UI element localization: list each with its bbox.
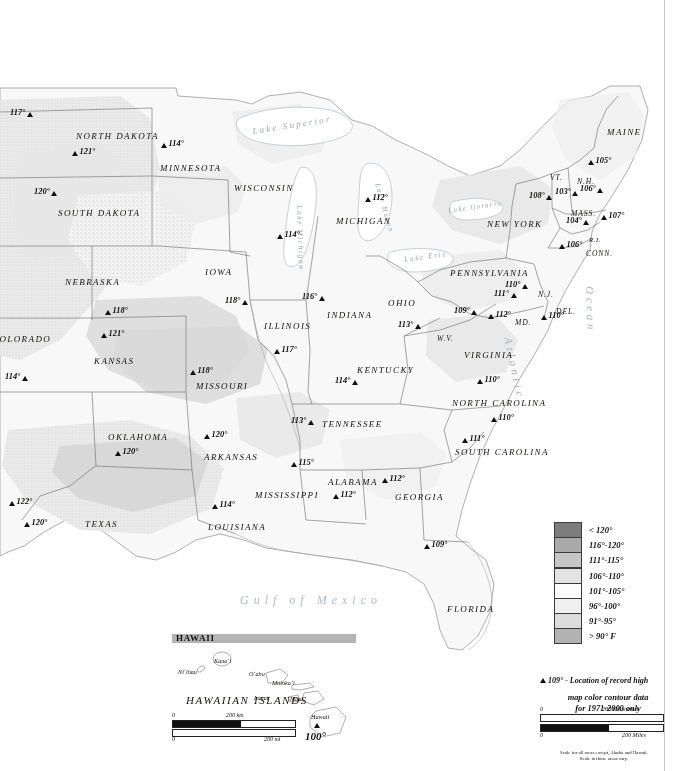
state-label: NORTH DAKOTA xyxy=(76,131,159,141)
state-label: INDIANA xyxy=(327,310,372,320)
record-high-marker: 112° xyxy=(382,474,405,483)
record-value: 118° xyxy=(198,366,213,375)
record-high-marker: 110° xyxy=(477,375,500,384)
legend-swatch-row: 101°-105° xyxy=(554,583,625,599)
state-label: MINNESOTA xyxy=(160,163,221,173)
record-high-marker: 112° xyxy=(333,490,356,499)
state-label: VT. xyxy=(550,173,563,182)
record-value: 115° xyxy=(299,458,314,467)
record-marker-icon xyxy=(22,376,28,381)
hawaii-scale-mi-zero: 0 xyxy=(172,736,175,742)
legend-color-swatch xyxy=(554,568,582,584)
record-marker-icon xyxy=(204,434,210,439)
record-high-marker: 110° xyxy=(505,280,528,289)
record-value: 118° xyxy=(225,296,240,305)
record-marker-icon xyxy=(51,191,57,196)
record-marker-icon xyxy=(115,451,121,456)
state-label: SOUTH DAKOTA xyxy=(58,208,140,218)
island-molokai xyxy=(292,683,314,690)
record-high-marker: 114° xyxy=(161,139,184,148)
state-label: OKLAHOMA xyxy=(108,432,168,442)
record-marker-icon xyxy=(522,284,528,289)
record-high-marker: 114° xyxy=(5,372,28,381)
state-label: LOUISIANA xyxy=(208,522,266,532)
state-label: R.I. xyxy=(589,236,601,243)
record-value: 110° xyxy=(505,280,520,289)
record-marker-icon xyxy=(601,215,607,220)
record-high-marker: 121° xyxy=(72,147,95,156)
record-marker-icon xyxy=(491,417,497,422)
record-high-marker: 110° xyxy=(491,413,514,422)
legend-footnote: Scale for all areas except, Alaska and H… xyxy=(536,750,672,763)
legend-scale-km-label: 200 Kilometers xyxy=(602,706,639,712)
record-high-marker: 113° xyxy=(291,416,314,425)
record-marker-icon xyxy=(415,324,421,329)
record-marker-icon xyxy=(333,494,339,499)
record-high-marker: 104° xyxy=(566,216,589,225)
record-value: 120° xyxy=(32,518,48,527)
record-marker-icon xyxy=(161,143,167,148)
record-value: 111° xyxy=(470,434,485,443)
record-marker-icon xyxy=(477,379,483,384)
legend-swatch-row: < 120° xyxy=(554,522,612,538)
legend-swatch-label: 116°-120° xyxy=(589,540,624,550)
legend-swatch-label: 91°-95° xyxy=(589,616,616,626)
state-label: NEW YORK xyxy=(487,219,542,229)
map-figure: Lake Superior Lake Michigan Lake Huron L… xyxy=(0,0,674,771)
record-value: 112° xyxy=(496,310,511,319)
legend-source-line1: map color contour data xyxy=(546,692,670,703)
record-value: 110° xyxy=(549,311,564,320)
record-value: 107° xyxy=(609,211,625,220)
atlantic-ocean-word2: Ocean xyxy=(584,286,598,333)
record-high-marker: 112° xyxy=(365,193,388,202)
state-label: TENNESSEE xyxy=(322,419,383,429)
hawaii-scale-km-zero: 0 xyxy=(172,712,175,718)
legend-scale-mi-zero: 0 xyxy=(540,732,543,738)
record-marker-icon xyxy=(27,112,33,117)
record-high-marker: 118° xyxy=(105,306,128,315)
record-high-marker: 112° xyxy=(488,310,511,319)
legend-swatch-row: 96°-100° xyxy=(554,598,620,614)
record-value: 106° xyxy=(580,184,596,193)
record-high-marker: 107° xyxy=(601,211,624,220)
record-high-marker: 108° xyxy=(529,191,552,200)
record-high-marker: 111° xyxy=(462,434,485,443)
record-high-marker: 120° xyxy=(24,518,47,527)
record-value: 116° xyxy=(302,292,317,301)
state-label: PENNSYLVANIA xyxy=(450,268,529,278)
state-label: CONN. xyxy=(586,249,613,258)
record-marker-icon xyxy=(511,293,517,298)
record-marker-icon xyxy=(471,310,477,315)
record-marker-icon xyxy=(242,300,248,305)
record-value: 114° xyxy=(220,500,235,509)
record-high-marker: 121° xyxy=(101,329,124,338)
record-marker-icon xyxy=(583,220,589,225)
record-marker-icon xyxy=(308,420,314,425)
hawaii-island-label: Maui xyxy=(290,695,303,702)
record-marker-icon xyxy=(488,314,494,319)
record-marker-icon xyxy=(352,380,358,385)
record-value: 120° xyxy=(34,187,50,196)
record-marker-icon xyxy=(541,315,547,320)
legend-scale-mi-label: 200 Miles xyxy=(622,732,646,738)
state-label: MD. xyxy=(515,318,531,327)
record-value: 110° xyxy=(499,413,514,422)
record-value: 103° xyxy=(555,187,571,196)
state-label: ALABAMA xyxy=(328,477,378,487)
record-high-marker: 109° xyxy=(454,306,477,315)
record-high-marker: 120° xyxy=(115,447,138,456)
record-high-marker: 111° xyxy=(494,289,517,298)
record-marker-icon xyxy=(540,678,546,683)
state-label: OHIO xyxy=(388,298,416,308)
legend-color-swatch xyxy=(554,537,582,553)
record-high-marker: 117° xyxy=(274,345,297,354)
record-marker-icon xyxy=(212,504,218,509)
legend-swatch-row: 116°-120° xyxy=(554,537,624,553)
hawaii-scale-km-label: 200 km xyxy=(226,712,244,718)
state-label: MICHIGAN xyxy=(336,216,391,226)
legend-swatch-label: 96°-100° xyxy=(589,601,620,611)
state-label: NEBRASKA xyxy=(65,277,120,287)
state-label: COLORADO xyxy=(0,334,51,344)
legend-swatch-label: < 120° xyxy=(589,525,612,535)
record-value: 108° xyxy=(529,191,545,200)
